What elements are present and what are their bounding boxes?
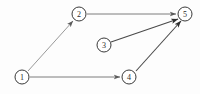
- node-5-label: 5: [183, 10, 187, 19]
- diagram-canvas: 12345: [0, 0, 200, 94]
- node-2-label: 2: [77, 10, 81, 19]
- node-1-label: 1: [20, 73, 24, 82]
- node-3[interactable]: 3: [97, 38, 111, 52]
- node-4[interactable]: 4: [122, 70, 136, 84]
- edge-1-to-2: [28, 21, 73, 71]
- edge-4-to-5: [136, 21, 181, 71]
- node-2[interactable]: 2: [72, 7, 86, 21]
- edge-3-to-5: [111, 19, 178, 42]
- node-5[interactable]: 5: [178, 7, 192, 21]
- node-layer: 12345: [15, 7, 192, 84]
- node-3-label: 3: [102, 41, 106, 50]
- node-4-label: 4: [127, 73, 131, 82]
- directed-graph: 12345: [0, 0, 200, 94]
- node-1[interactable]: 1: [15, 70, 29, 84]
